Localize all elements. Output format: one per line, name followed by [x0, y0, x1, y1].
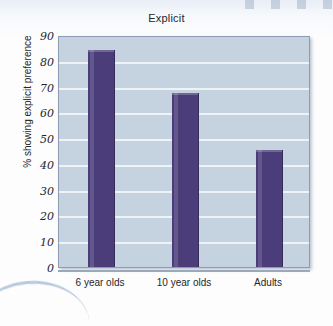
y-axis-tick-label: 0 [47, 262, 54, 275]
y-axis-tick-labels: 0102030405060708090 [30, 36, 54, 268]
x-axis-line [58, 270, 310, 272]
x-axis-category-labels: 6 year olds10 year oldsAdults [58, 277, 310, 293]
y-axis-tick-label: 90 [40, 30, 54, 43]
y-axis-tick-label: 70 [40, 81, 54, 94]
y-axis-tick-label: 60 [40, 107, 54, 120]
y-axis-tick-label: 30 [40, 184, 54, 197]
y-axis-tick-label: 80 [40, 55, 54, 68]
bar [88, 50, 115, 267]
x-axis-category-label: Adults [254, 277, 282, 288]
bar [256, 150, 283, 267]
y-axis-tick-label: 50 [40, 133, 54, 146]
plot-area [58, 36, 310, 268]
scan-artifact-top [245, 0, 333, 9]
y-axis-tick-label: 10 [40, 236, 54, 249]
chart-title: Explicit [0, 12, 333, 24]
y-axis-tick-label: 40 [40, 158, 54, 171]
x-axis-category-label: 6 year olds [76, 277, 125, 288]
x-axis-category-label: 10 year olds [157, 277, 211, 288]
bar [172, 93, 199, 267]
bar-series [59, 37, 309, 267]
y-axis-tick-label: 20 [40, 210, 54, 223]
